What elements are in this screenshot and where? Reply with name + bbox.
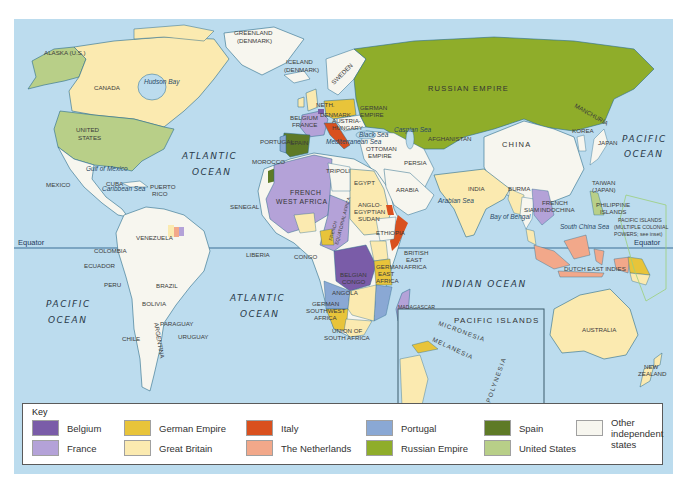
- south-africa-label-1: UNION OF: [332, 327, 362, 334]
- puerto-rico-label-1: PUERTO: [150, 183, 176, 190]
- russian-empire-swatch: [366, 440, 393, 456]
- nz-label-1: NEW: [644, 363, 659, 370]
- korea-region: [577, 135, 586, 151]
- dutch-guiana: [174, 227, 179, 237]
- gswa-label-3: AFRICA: [314, 314, 338, 321]
- legend-item-great-britain: Great Britain: [124, 440, 212, 456]
- pacific-west-label-2: OCEAN: [48, 315, 87, 325]
- legend-label: German Empire: [159, 423, 226, 434]
- legend-item-other-independent: Other independent states: [576, 420, 681, 454]
- mediterranean-sea-label: Mediterranean Sea: [326, 138, 382, 145]
- pacific-powers-label-1: PACIFIC ISLANDS: [618, 217, 662, 223]
- portugal-swatch: [366, 420, 393, 436]
- bea-label-1: BRITISH: [404, 249, 428, 256]
- legend-item-united-states: United States: [484, 440, 576, 456]
- german-empire-label-1: GERMAN: [360, 104, 387, 111]
- gea-label-2: EAST: [378, 270, 394, 277]
- atlantic-north-label-2: OCEAN: [192, 167, 231, 177]
- burma-label: BURMA: [508, 185, 531, 192]
- egypt-label: EGYPT: [354, 179, 375, 186]
- sudan-label-2: EGYPTIAN: [354, 208, 385, 215]
- korea-label: KOREA: [572, 127, 595, 134]
- iceland-label-1: ICELAND: [286, 58, 313, 65]
- belgium-swatch: [32, 420, 59, 436]
- legend-item-france: France: [32, 440, 97, 456]
- equator-label-right: Equator: [634, 238, 661, 247]
- persia-label: PERSIA: [404, 159, 428, 166]
- arabia-label: ARABIA: [396, 186, 420, 193]
- cuba-label: CUBA: [106, 180, 124, 187]
- german-empire-swatch: [124, 420, 151, 436]
- new-guinea-british: [630, 273, 650, 285]
- australia-label: AUSTRALIA: [582, 326, 617, 333]
- atlantic-south-label-2: OCEAN: [240, 309, 279, 319]
- fwa-label-2: WEST AFRICA: [276, 198, 327, 205]
- taiwan-label-2: (JAPAN): [592, 186, 616, 193]
- indochina-label-2: INDOCHINA: [540, 206, 576, 213]
- united-states-swatch: [484, 440, 511, 456]
- morocco-label: MOROCCO: [252, 158, 285, 165]
- chile-label: CHILE: [122, 335, 140, 342]
- paraguay-label: PARAGUAY: [160, 320, 193, 327]
- legend-item-belgium: Belgium: [32, 420, 101, 436]
- great-britain-swatch: [124, 440, 151, 456]
- arabian-sea-label: Arabian Sea: [437, 197, 474, 204]
- canada-label: CANADA: [94, 84, 121, 91]
- uruguay-label: URUGUAY: [178, 333, 208, 340]
- mexico-label: MEXICO: [46, 181, 71, 188]
- south-africa-label-2: SOUTH AFRICA: [324, 334, 371, 341]
- borneo-region: [564, 235, 590, 259]
- gswa-label-2: SOUTHWEST: [306, 307, 346, 314]
- pacific-powers-label-3: POWERS; see inset): [614, 231, 663, 237]
- bolivia-label: BOLIVIA: [142, 300, 167, 307]
- belgium-label: BELGIUM: [290, 114, 318, 121]
- japan-region: [590, 129, 608, 165]
- legend-item-netherlands: The Netherlands: [246, 440, 351, 456]
- other-independent-swatch: [576, 420, 603, 436]
- colombia-label: COLOMBIA: [94, 247, 128, 254]
- french-guiana: [179, 227, 184, 236]
- caspian-sea-label: Caspian Sea: [394, 126, 432, 134]
- france-swatch: [32, 440, 59, 456]
- ottoman-label-1: OTTOMAN: [366, 145, 397, 152]
- spain-label: SPAIN: [290, 139, 308, 146]
- pacific-east-label-2: OCEAN: [624, 149, 663, 159]
- nz-label-2: ZEALAND: [638, 370, 667, 377]
- congo-label: CONGO: [294, 253, 318, 260]
- belgian-congo-label-2: CONGO: [342, 278, 366, 285]
- ethiopia-label: ETHIOPIA: [376, 229, 406, 236]
- legend-label: France: [67, 443, 97, 454]
- italy-swatch: [246, 420, 273, 436]
- puerto-rico-label-2: RICO: [152, 190, 168, 197]
- celebes-region: [594, 249, 604, 265]
- dutch-east-indies-label: DUTCH EAST INDIES: [564, 265, 626, 272]
- legend-label: Great Britain: [159, 443, 212, 454]
- sudan-label-1: ANGLO-: [358, 201, 382, 208]
- japan-label: JAPAN: [598, 139, 617, 146]
- neth-label: NETH.: [316, 101, 335, 108]
- india-label: INDIA: [468, 185, 485, 192]
- atlantic-south-label-1: ATLANTIC: [229, 293, 285, 303]
- sudan-label-3: SUDAN: [358, 215, 380, 222]
- gea-label-3: AFRICA: [376, 277, 400, 284]
- legend-title: Key: [32, 407, 48, 417]
- malaya-region: [526, 229, 536, 245]
- legend-label: The Netherlands: [281, 443, 351, 454]
- ottoman-label-2: EMPIRE: [368, 152, 392, 159]
- china-label: CHINA: [502, 140, 531, 149]
- venezuela-label: VENEZUELA: [136, 234, 174, 241]
- south-china-sea-label: South China Sea: [560, 223, 610, 230]
- us-label-2: STATES: [78, 134, 101, 141]
- legend-label: Italy: [281, 423, 298, 434]
- pacific-east-label-1: PACIFIC: [622, 134, 667, 144]
- philippines-label-1: PHILIPPINE: [596, 201, 630, 208]
- belgian-congo-label-1: BELGIAN: [340, 271, 367, 278]
- peru-label: PERU: [104, 281, 121, 288]
- legend-label: Russian Empire: [401, 443, 468, 454]
- equator-label-left: Equator: [18, 238, 45, 247]
- gulf-of-mexico-label: Gulf of Mexico: [86, 165, 128, 172]
- australia-region: [550, 289, 638, 359]
- atlantic-north-label-1: ATLANTIC: [181, 151, 237, 161]
- austria-hungary-label-2: HUNGARY: [332, 124, 363, 131]
- legend-label: Other independent states: [611, 417, 681, 450]
